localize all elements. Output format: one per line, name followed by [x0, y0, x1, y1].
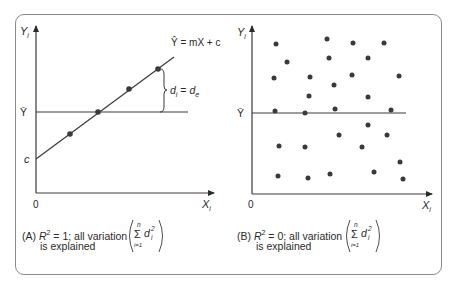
panel-a-data-point — [67, 131, 73, 137]
panel-b-origin-label: 0 — [248, 199, 254, 210]
svg-text:2: 2 — [367, 225, 372, 232]
panel-a-deviation-brace-icon — [160, 69, 167, 112]
svg-text:i=1: i=1 — [134, 242, 142, 248]
panel-a-data-point — [126, 86, 132, 92]
panel-a-mean-label: Ȳ — [20, 106, 27, 118]
panel-a-caption-prefix: (A) — [22, 230, 39, 242]
panel-a-y-axis-label: Yi — [20, 25, 29, 39]
panel-b-caption-line2: is explained — [256, 240, 311, 252]
svg-text:2: 2 — [150, 225, 155, 232]
panel-a-regression-line — [36, 57, 174, 159]
panel-a-caption-line2: is explained — [40, 240, 95, 252]
panel-a-origin-label: 0 — [33, 199, 39, 210]
panel-a-intercept-label: c — [24, 153, 30, 165]
panel-a-x-axis-label: Xi — [201, 198, 211, 212]
panel-a-deviation-label: di = de — [170, 84, 199, 98]
panel-b-x-axis-label: Xi — [421, 199, 431, 213]
panel-a-data-point — [155, 66, 161, 72]
svg-text:n: n — [354, 221, 358, 228]
svg-text:d: d — [361, 227, 368, 239]
svg-text:n: n — [137, 221, 141, 228]
panel-b-caption-prefix: (B) — [237, 230, 254, 242]
svg-text:i=1: i=1 — [351, 242, 359, 248]
panel-b-mean-label: Ȳ — [237, 107, 244, 119]
panel-b-sum-expression: n Σ i=1 d 2 i — [347, 220, 380, 252]
svg-text:i: i — [368, 234, 370, 241]
svg-text:Σ: Σ — [351, 228, 358, 240]
panel-b-plot: Yi Xi 0 Ȳ — [237, 26, 432, 213]
panel-a-regression-label: Ŷ = mX + c — [171, 36, 220, 48]
panel-a-plot: Yi Xi 0 Ȳ c Ŷ = mX + c di = de — [20, 25, 220, 212]
svg-text:Σ: Σ — [134, 228, 141, 240]
svg-text:i: i — [151, 234, 153, 241]
panel-a-sum-expression: n Σ i=1 d 2 i — [130, 220, 163, 252]
panel-b-y-axis-label: Yi — [237, 26, 246, 40]
panel-a-data-point — [95, 109, 101, 115]
panel-b-scatter-points — [272, 37, 406, 182]
svg-text:d: d — [144, 227, 151, 239]
